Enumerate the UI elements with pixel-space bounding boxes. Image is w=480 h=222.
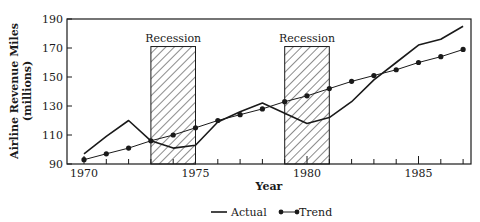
plot-frame <box>67 19 471 164</box>
trend-point <box>104 151 109 156</box>
trend-point <box>215 118 220 123</box>
legend-trend-label: Trend <box>299 206 332 219</box>
trend-point <box>304 93 309 98</box>
legend-actual-label: Actual <box>230 206 267 219</box>
legend: Actual Trend <box>211 206 332 219</box>
x-axis-title: Year <box>255 180 283 193</box>
trend-point <box>461 47 466 52</box>
trend-point <box>438 54 443 59</box>
recession-band <box>285 47 330 164</box>
trend-point <box>126 145 131 150</box>
series-lines <box>81 26 465 162</box>
y-tick-label: 170 <box>42 42 63 55</box>
trend-point <box>193 125 198 130</box>
y-tick-label: 110 <box>42 129 63 142</box>
series-trend-line <box>84 50 463 160</box>
y-tick-label: 130 <box>42 100 63 113</box>
trend-point <box>371 73 376 78</box>
trend-point <box>416 60 421 65</box>
x-tick-label: 1970 <box>70 167 98 180</box>
recession-label: Recession <box>145 32 201 45</box>
series-actual-line <box>84 26 463 154</box>
trend-point <box>81 157 86 162</box>
x-axis: 1970197519801985 <box>70 156 463 180</box>
trend-point <box>282 99 287 104</box>
trend-point <box>394 67 399 72</box>
legend-trend-dot-icon <box>279 210 284 215</box>
x-tick-label: 1980 <box>293 167 321 180</box>
line-chart: RecessionRecession 90110130150170190 197… <box>0 0 480 222</box>
y-tick-label: 150 <box>42 71 63 84</box>
y-axis-title: Airline Revenue Miles <box>8 23 21 160</box>
y-tick-label: 90 <box>49 158 63 171</box>
trend-point <box>327 86 332 91</box>
x-tick-label: 1975 <box>182 167 210 180</box>
recession-label: Recession <box>279 32 335 45</box>
trend-point <box>171 132 176 137</box>
y-tick-label: 190 <box>42 13 63 26</box>
x-tick-label: 1985 <box>405 167 433 180</box>
y-axis-subtitle: (millions) <box>21 61 34 121</box>
trend-point <box>238 112 243 117</box>
trend-point <box>260 106 265 111</box>
trend-point <box>349 79 354 84</box>
trend-point <box>148 138 153 143</box>
